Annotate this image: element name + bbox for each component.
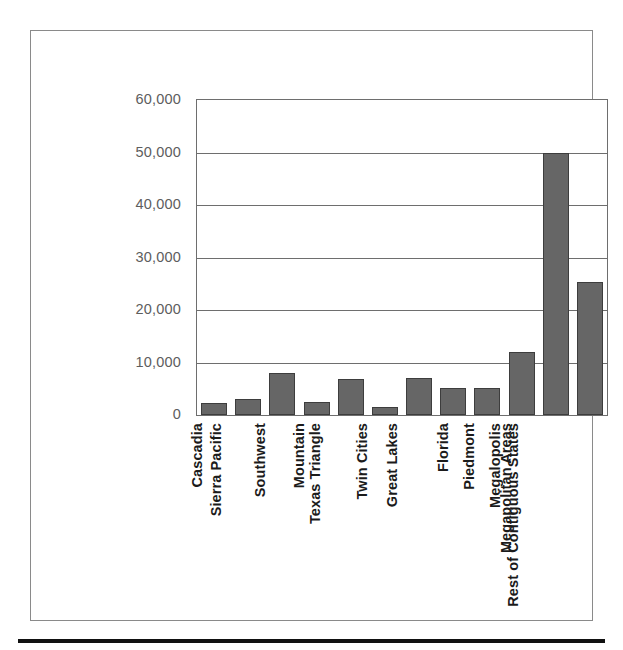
x-axis-category-label-text: Twin Cities [354, 423, 370, 500]
figure-frame: 010,00020,00030,00040,00050,00060,000 Ca… [30, 30, 593, 621]
x-axis-category-label-text: Cascadia [189, 423, 205, 487]
x-axis-category-label-text: Piedmont [461, 423, 477, 490]
x-axis-category-label-text: Great Lakes [384, 423, 400, 507]
bottom-divider-rule [18, 639, 605, 643]
y-axis-tick-label: 30,000 [89, 249, 181, 265]
x-axis-category-label: Piedmont [453, 356, 469, 423]
y-axis-tick-label: 60,000 [89, 91, 181, 107]
x-label-slot: Rest of Contiguous States [572, 417, 606, 647]
bar[interactable] [543, 153, 569, 416]
x-axis-category-label: Great Lakes [376, 339, 392, 423]
x-axis-category-label: Sierra Pacific [201, 330, 217, 423]
x-label-slot: Megapolitan Areas [538, 417, 572, 647]
x-axis-category-label-text: Southwest [252, 423, 268, 497]
x-axis-category-label: Rest of Contiguous States [497, 239, 513, 423]
y-axis-tick-label: 50,000 [89, 144, 181, 160]
x-axis-category-label-text: Rest of Contiguous States [505, 423, 521, 607]
x-axis-category-label: Texas Triangle [299, 322, 315, 423]
bar[interactable] [577, 282, 603, 415]
bar-slot [402, 100, 436, 415]
y-axis-tick-label: 40,000 [89, 196, 181, 212]
x-label-slot: Great Lakes [401, 417, 435, 647]
x-axis-category-label: Florida [428, 374, 444, 423]
bar-slot [573, 100, 607, 415]
y-axis-tick-label: 0 [89, 406, 181, 422]
y-axis-tick-label: 20,000 [89, 301, 181, 317]
bar-slot [539, 100, 573, 415]
x-axis-category-label: Mountain [283, 358, 299, 423]
x-axis-category-label: Southwest [244, 349, 260, 423]
x-axis-category-label-text: Florida [436, 423, 452, 472]
x-axis-category-label-text: Mountain [291, 423, 307, 488]
x-axis-category-labels: CascadiaSierra PacificSouthwestMountainT… [196, 417, 606, 647]
x-axis-category-label-text: Sierra Pacific [209, 423, 225, 516]
y-axis-tick-labels: 010,00020,00030,00040,00050,00060,000 [89, 91, 189, 421]
y-axis-tick-label: 10,000 [89, 354, 181, 370]
x-axis-category-label: Cascadia [181, 359, 197, 423]
x-axis-category-label-text: Texas Triangle [307, 423, 323, 524]
x-axis-category-label: Twin Cities [346, 346, 362, 423]
